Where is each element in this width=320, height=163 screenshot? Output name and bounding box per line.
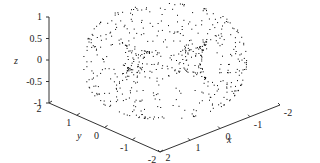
data-point [206,10,207,11]
data-point [83,69,84,70]
data-point [226,19,227,20]
data-point [234,28,235,29]
data-point [136,115,137,116]
data-point [136,33,137,34]
data-point [204,83,205,84]
data-point [86,81,87,82]
data-point [246,60,247,61]
data-point [116,89,117,90]
data-point [100,100,101,101]
data-point [134,101,135,102]
data-point [122,12,123,13]
data-point [111,45,112,46]
data-point [126,72,127,73]
data-point [184,4,185,5]
data-point [104,101,105,102]
data-point [183,63,184,64]
data-point [134,110,135,111]
data-point [244,62,245,63]
data-point [191,29,192,30]
data-point [200,55,201,56]
data-point [119,111,120,112]
data-point [180,33,181,34]
data-point [179,91,180,92]
data-point [143,58,144,59]
data-point [231,82,232,83]
data-point [132,111,133,112]
data-point [217,91,218,92]
data-point [127,76,128,77]
data-point [246,64,247,65]
data-point [201,59,202,60]
data-point [188,48,189,49]
data-point [178,71,179,72]
data-point [146,52,147,53]
data-point [134,49,135,50]
data-point [140,55,141,56]
data-point [143,90,144,91]
data-point [185,56,186,57]
data-point [177,21,178,22]
data-point [132,58,133,59]
data-point [180,4,181,5]
data-point [235,53,236,54]
data-point [239,75,240,76]
data-point [221,72,222,73]
data-point [125,77,126,78]
data-point [198,53,199,54]
data-point [187,53,188,54]
tick-mark [77,113,80,115]
data-point [106,56,107,57]
data-point [163,118,164,119]
data-point [202,100,203,101]
data-point [239,54,240,55]
tick-label: 1 [196,142,201,153]
data-point [226,21,227,22]
data-point [235,86,236,87]
data-point [203,42,204,43]
data-point [229,100,230,101]
data-point [149,51,150,52]
data-point [188,45,189,46]
data-point [144,71,145,72]
data-point [129,115,130,116]
data-point [129,44,130,45]
data-points [83,3,247,120]
data-point [131,65,132,66]
data-point [162,14,163,15]
data-point [119,43,120,44]
data-point [127,71,128,72]
data-point [201,76,202,77]
data-point [214,94,215,95]
data-point [95,86,96,87]
data-point [147,118,148,119]
data-point [197,47,198,48]
data-point [196,48,197,49]
data-point [158,62,159,63]
data-point [116,96,117,97]
data-point [186,60,187,61]
data-point [96,49,97,50]
data-point [123,73,124,74]
data-point [205,44,206,45]
data-point [159,99,160,100]
data-point [152,26,153,27]
data-point [152,52,153,53]
data-point [167,68,168,69]
data-point [100,47,101,48]
data-point [226,88,227,89]
data-point [132,14,133,15]
data-point [239,42,240,43]
data-point [105,68,106,69]
data-point [215,19,216,20]
data-point [243,43,244,44]
data-point [230,34,231,35]
data-point [210,39,211,40]
data-point [146,7,147,8]
data-point [115,29,116,30]
data-point [123,100,124,101]
data-point [158,31,159,32]
data-point [175,69,176,70]
data-point [127,48,128,49]
data-point [147,41,148,42]
